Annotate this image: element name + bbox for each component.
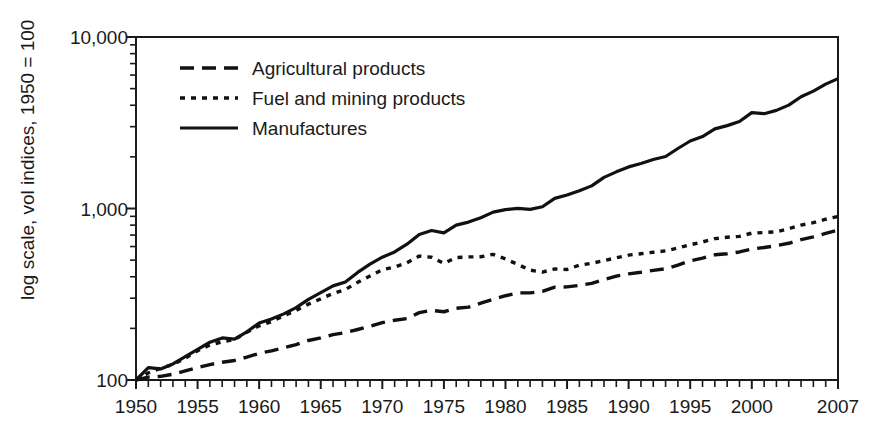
y-tick-label: 100 (96, 370, 128, 391)
x-axis-tick-labels: 1950195519601965197019751980198519901995… (115, 396, 859, 417)
chart-legend: Agricultural productsFuel and mining pro… (180, 58, 465, 139)
x-tick-label: 1995 (669, 396, 711, 417)
y-axis-title-label: log scale, vol indices, 1950 = 100 (17, 20, 38, 300)
x-tick-label: 1980 (484, 396, 526, 417)
legend-label: Agricultural products (252, 58, 425, 79)
x-tick-label: 2000 (731, 396, 773, 417)
x-tick-label: 1975 (423, 396, 465, 417)
data-series-group (136, 79, 838, 380)
series-line-manufactures (136, 79, 838, 380)
plot-area-frame (136, 37, 838, 380)
x-axis-ticks (136, 380, 838, 389)
x-tick-label: 1960 (238, 396, 280, 417)
x-tick-label: 1970 (361, 396, 403, 417)
legend-label: Fuel and mining products (252, 88, 465, 109)
chart-figure: log scale, vol indices, 1950 = 100 10,00… (0, 0, 880, 438)
x-tick-label: 1950 (115, 396, 157, 417)
y-axis-ticks (127, 37, 136, 380)
x-tick-label: 1965 (300, 396, 342, 417)
line-chart: log scale, vol indices, 1950 = 100 10,00… (0, 0, 880, 438)
x-tick-label: 1990 (607, 396, 649, 417)
x-tick-label: 2007 (817, 396, 859, 417)
y-tick-label: 10,000 (70, 27, 128, 48)
legend-label: Manufactures (252, 118, 367, 139)
series-line-fuel-and-mining-products (136, 217, 838, 380)
x-tick-label: 1985 (546, 396, 588, 417)
y-axis-tick-labels: 10,0001,000100 (70, 27, 128, 391)
x-tick-label: 1955 (176, 396, 218, 417)
y-axis-title: log scale, vol indices, 1950 = 100 (17, 20, 38, 300)
y-tick-label: 1,000 (80, 199, 128, 220)
series-line-agricultural-products (136, 230, 838, 380)
